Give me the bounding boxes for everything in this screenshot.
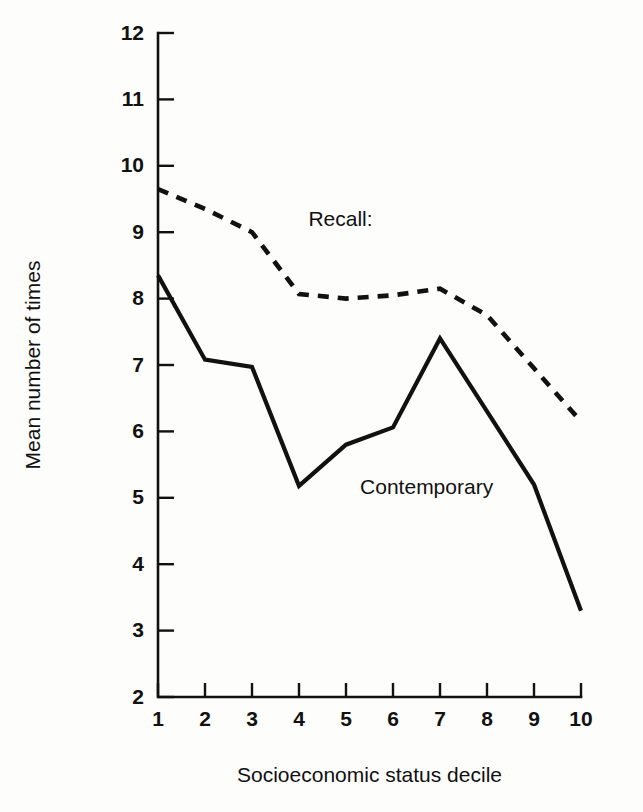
y-tick-label: 5 bbox=[132, 485, 144, 508]
x-tick-label: 1 bbox=[152, 707, 164, 730]
y-tick-label: 10 bbox=[121, 153, 144, 176]
chart-figure: 23456789101112 12345678910 Recall:Contem… bbox=[0, 0, 643, 812]
x-axis-title: Socioeconomic status decile bbox=[237, 763, 502, 786]
x-tick-label: 6 bbox=[387, 707, 399, 730]
y-tick-label: 3 bbox=[132, 618, 144, 641]
x-tick-label: 8 bbox=[481, 707, 493, 730]
y-tick-label: 8 bbox=[132, 286, 144, 309]
x-tick-label: 7 bbox=[434, 707, 446, 730]
y-tick-label: 9 bbox=[132, 220, 144, 243]
data-series bbox=[158, 189, 581, 611]
x-tick-label: 4 bbox=[293, 707, 305, 730]
y-tick-label: 2 bbox=[132, 685, 144, 708]
x-tick-label: 2 bbox=[199, 707, 211, 730]
x-tick-label: 9 bbox=[528, 707, 540, 730]
x-axis-ticks: 12345678910 bbox=[152, 683, 593, 730]
line-chart: 23456789101112 12345678910 Recall:Contem… bbox=[0, 0, 643, 812]
y-tick-label: 11 bbox=[122, 87, 145, 110]
y-tick-label: 4 bbox=[132, 552, 144, 575]
y-tick-label: 7 bbox=[132, 353, 144, 376]
series-label-dashed: Recall: bbox=[308, 207, 372, 230]
series-label-solid: Contemporary bbox=[360, 475, 494, 498]
y-axis-ticks: 23456789101112 bbox=[121, 21, 174, 708]
series-solid bbox=[158, 275, 581, 610]
x-tick-label: 5 bbox=[340, 707, 352, 730]
y-axis-title: Mean number of times bbox=[21, 261, 44, 470]
axis-spine bbox=[158, 33, 581, 697]
axes bbox=[158, 33, 581, 697]
x-tick-label: 3 bbox=[246, 707, 258, 730]
y-tick-label: 6 bbox=[132, 419, 144, 442]
x-tick-label: 10 bbox=[569, 707, 592, 730]
y-tick-label: 12 bbox=[121, 21, 144, 44]
